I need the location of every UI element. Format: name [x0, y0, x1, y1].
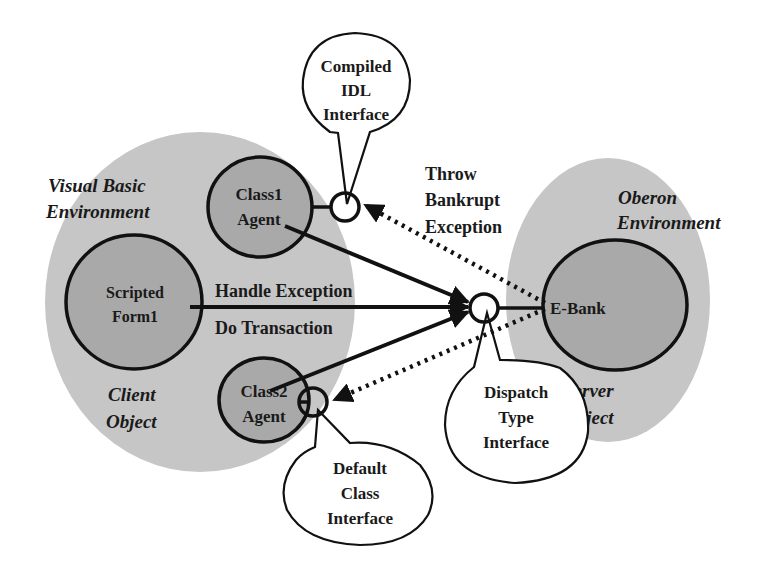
scripted-form1-line2: Form1: [112, 308, 158, 325]
com-interop-diagram: Visual Basic Environment Client Object O…: [0, 0, 783, 580]
class1-agent-line1: Class1: [235, 185, 282, 204]
default-class-line1: Default: [333, 459, 387, 478]
scripted-form1-object: Scripted Form1: [66, 235, 202, 369]
class1-agent-line2: Agent: [237, 210, 281, 229]
handle-exception-label: Handle Exception: [215, 281, 353, 301]
server-env-title-line2: Environment: [616, 212, 721, 233]
do-transaction-label: Do Transaction: [215, 318, 333, 338]
client-role-line1: Client: [108, 384, 156, 405]
class1-agent-object: Class1 Agent: [208, 157, 312, 257]
dispatch-type-line1: Dispatch: [484, 383, 549, 402]
throw-bankrupt-line3: Exception: [425, 217, 502, 237]
default-class-line2: Class: [341, 484, 380, 503]
default-class-line3: Interface: [327, 509, 394, 528]
e-bank-label: E-Bank: [550, 299, 606, 318]
dispatch-type-interface-port: [470, 294, 498, 322]
default-class-interface-bubble: Default Class Interface: [284, 410, 433, 545]
server-env-title-line1: Oberon: [618, 187, 677, 208]
client-role-line2: Object: [106, 411, 157, 432]
client-env-title-line1: Visual Basic: [48, 175, 146, 196]
compiled-idl-interface-port: [331, 193, 359, 221]
compiled-idl-line2: IDL: [341, 81, 371, 100]
throw-bankrupt-line2: Bankrupt: [425, 190, 500, 210]
compiled-idl-interface-bubble: Compiled IDL Interface: [303, 33, 410, 204]
class2-agent-object: Class2 Agent: [219, 358, 309, 442]
client-env-title-line2: Environment: [45, 201, 150, 222]
throw-bankrupt-line1: Throw: [425, 164, 477, 184]
dispatch-type-line3: Interface: [483, 433, 550, 452]
compiled-idl-line3: Interface: [323, 105, 390, 124]
class2-agent-line2: Agent: [242, 407, 286, 426]
dispatch-type-line2: Type: [498, 408, 534, 427]
scripted-form1-line1: Scripted: [106, 284, 164, 302]
compiled-idl-line1: Compiled: [321, 57, 392, 76]
